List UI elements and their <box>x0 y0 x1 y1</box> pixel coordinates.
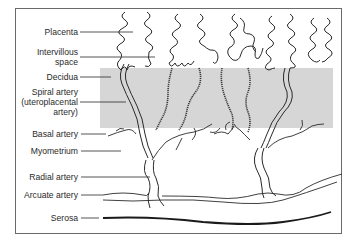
serosa-line <box>103 212 331 224</box>
label-text: Serosa <box>51 213 78 223</box>
label-placenta: Placenta <box>45 27 78 37</box>
label-decidua: Decidua <box>46 72 78 82</box>
arcuate-artery <box>103 174 342 204</box>
label-basal-artery: Basal artery <box>32 129 78 139</box>
label-arcuate-artery: Arcuate artery <box>24 190 78 200</box>
label-intervillous-space: Intervillous space <box>37 47 78 67</box>
label-serosa: Serosa <box>51 213 78 223</box>
label-text: Arcuate artery <box>24 190 78 200</box>
label-text: Myometrium <box>31 146 78 156</box>
label-text: Basal artery <box>32 129 78 139</box>
placental-villi <box>117 12 332 70</box>
label-spiral-artery: Spiral artery (uteroplacental artery) <box>21 87 78 117</box>
label-text: (uteroplacental <box>21 97 78 107</box>
label-text: artery) <box>21 107 78 117</box>
label-text: Placenta <box>45 27 78 37</box>
label-text: space <box>37 57 78 67</box>
label-text: Intervillous <box>37 47 78 57</box>
label-myometrium: Myometrium <box>31 146 78 156</box>
radial-arteries <box>144 148 276 208</box>
label-text: Spiral artery <box>21 87 78 97</box>
label-text: Radial artery <box>29 172 78 182</box>
label-radial-artery: Radial artery <box>29 172 78 182</box>
label-text: Decidua <box>46 72 78 82</box>
decidua-band <box>100 68 333 128</box>
